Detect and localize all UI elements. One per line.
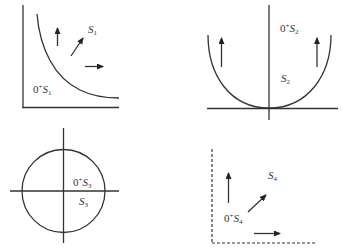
region-label-s3: S3: [79, 195, 89, 209]
arrow-diagonal-icon: [71, 38, 83, 56]
outer-label-0plus-s2: 0+S2: [280, 22, 299, 36]
region-label-s4: S4: [268, 169, 278, 183]
panel-1: S1 0+S1: [22, 5, 119, 108]
diagram-canvas: S1 0+S1 0+S2 S2 0+S3 S3 S4 0+S4: [0, 0, 343, 251]
region-label-s2: S2: [281, 72, 291, 86]
outer-label-0plus-s3: 0+S3: [73, 176, 92, 190]
panel-2: 0+S2 S2: [207, 5, 338, 120]
panel-3: 0+S3 S3: [10, 128, 119, 243]
outer-label-0plus-s1: 0+S1: [33, 83, 52, 97]
region-label-s1: S1: [88, 23, 98, 37]
hyperbola-curve: [37, 14, 119, 98]
panel-4: S4 0+S4: [212, 149, 316, 243]
arrow-diagonal-icon: [248, 195, 266, 212]
outer-label-0plus-s4: 0+S4: [224, 212, 243, 226]
